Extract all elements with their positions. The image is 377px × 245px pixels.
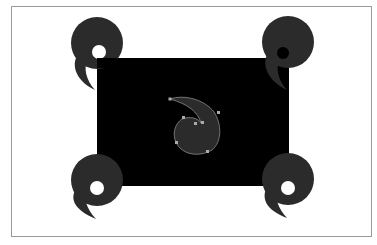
swirl-bottom-left[interactable] xyxy=(71,154,123,219)
artwork[interactable] xyxy=(0,0,377,245)
drawing-canvas[interactable] xyxy=(0,0,377,245)
swirl-bottom-right[interactable] xyxy=(262,153,314,218)
